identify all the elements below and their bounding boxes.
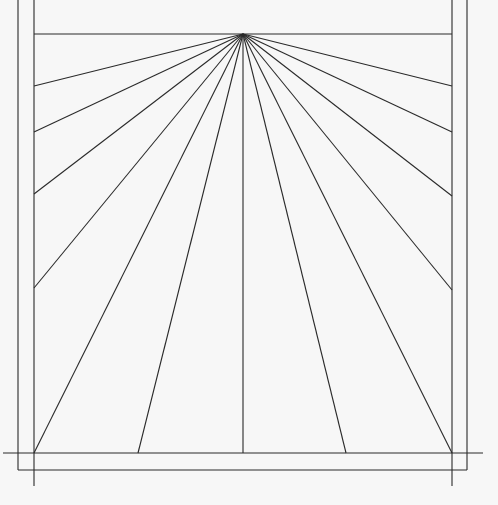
hour-line-11: [243, 34, 452, 132]
hour-line-12: [243, 34, 452, 86]
sundial-diagram: [0, 0, 498, 505]
hour-line-8: [243, 34, 452, 453]
hour-line-2: [34, 34, 243, 194]
hour-line-1: [34, 34, 243, 132]
hour-line-5: [138, 34, 243, 453]
hour-lines: [34, 34, 452, 453]
hour-line-4: [34, 34, 243, 453]
hour-line-10: [243, 34, 452, 196]
hour-line-0: [34, 34, 243, 86]
